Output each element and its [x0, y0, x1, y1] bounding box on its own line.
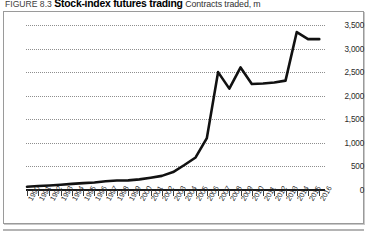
figure-container: FIGURE 8.3 Stock-index futures trading C…: [0, 0, 367, 237]
y-axis-tick-label: 1,500: [328, 115, 364, 124]
y-axis-tick-label: 0: [328, 186, 364, 195]
figure-number: FIGURE 8.3: [5, 0, 52, 9]
y-axis-tick-label: 3,500: [328, 21, 364, 30]
figure-caption: FIGURE 8.3 Stock-index futures trading C…: [5, 0, 261, 9]
figure-subtitle: Contracts traded, m: [185, 0, 260, 9]
y-axis-tick-label: 2,500: [328, 68, 364, 77]
y-axis-tick-label: 2,000: [328, 91, 364, 100]
y-axis-tick-label: 1,000: [328, 138, 364, 147]
page-title: Stock-index futures trading: [54, 0, 182, 9]
bottom-divider: [3, 229, 364, 231]
data-line-series: [26, 25, 325, 190]
y-axis-tick-label: 3,000: [328, 44, 364, 53]
y-axis-tick-label: 500: [328, 162, 364, 171]
